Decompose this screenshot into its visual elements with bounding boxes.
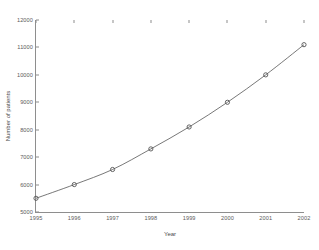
y-tick-label: 6000 (20, 182, 36, 188)
chart-figure: 50006000700080009000100001100012000 1995… (0, 0, 319, 250)
x-tick-label: 2002 (298, 215, 311, 221)
x-tick-label: 1997 (106, 215, 119, 221)
plot-area: 50006000700080009000100001100012000 1995… (36, 20, 304, 212)
y-tick-label: 11000 (17, 44, 36, 50)
y-tick-label: 8000 (20, 127, 36, 133)
series-path (36, 45, 304, 199)
x-tick-label: 1998 (144, 215, 157, 221)
x-tick-label: 2000 (221, 215, 234, 221)
x-tick-label: 1995 (30, 215, 43, 221)
data-series-line (36, 20, 304, 212)
y-tick-label: 12000 (17, 17, 36, 23)
y-tick-label: 7000 (20, 154, 36, 160)
y-axis-title: Number of patients (5, 91, 11, 142)
x-tick-label: 1996 (68, 215, 81, 221)
y-tick-label: 9000 (20, 99, 36, 105)
x-axis-line (35, 212, 304, 213)
x-tick-label: 2001 (259, 215, 272, 221)
y-tick-label: 10000 (17, 72, 36, 78)
x-tick-label: 1999 (183, 215, 196, 221)
x-axis-title: Year (36, 231, 304, 237)
